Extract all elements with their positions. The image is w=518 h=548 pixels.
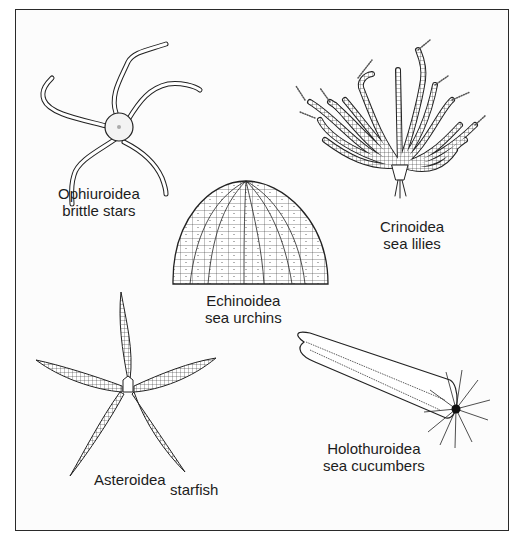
label-asteroidea-common: starfish — [170, 481, 218, 498]
sea-lily-drawing — [296, 40, 486, 198]
sea-urchin-drawing — [173, 181, 328, 284]
label-echinoidea: Echinoidea sea urchins — [205, 292, 282, 326]
common-name: sea lilies — [380, 235, 444, 252]
class-name: Crinoidea — [380, 218, 444, 235]
label-ophiuroidea: Ophiuroidea brittle stars — [58, 185, 140, 219]
common-name: brittle stars — [58, 202, 140, 219]
common-name: sea cucumbers — [323, 457, 425, 474]
label-holothuroidea: Holothuroidea sea cucumbers — [323, 440, 425, 474]
label-crinoidea: Crinoidea sea lilies — [380, 218, 444, 252]
brittle-star-drawing — [43, 44, 200, 204]
label-asteroidea: Asteroidea — [94, 471, 166, 488]
class-name: Echinoidea — [205, 292, 282, 309]
class-name: Asteroidea — [94, 471, 166, 488]
common-name: sea urchins — [205, 309, 282, 326]
sea-cucumber-drawing — [298, 332, 490, 448]
class-name: Holothuroidea — [323, 440, 425, 457]
common-name: starfish — [170, 481, 218, 498]
echinoderm-illustrations — [0, 0, 518, 548]
class-name: Ophiuroidea — [58, 185, 140, 202]
starfish-drawing — [36, 292, 216, 476]
